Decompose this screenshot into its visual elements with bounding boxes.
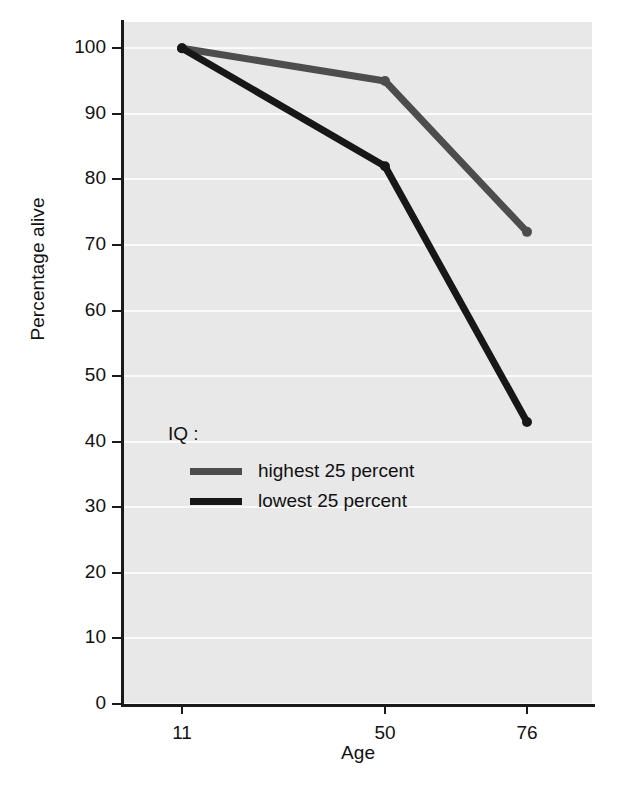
plot-area xyxy=(124,22,592,704)
y-tick-mark xyxy=(112,244,122,246)
series-2 xyxy=(177,43,532,427)
y-tick-mark xyxy=(112,572,122,574)
y-tick-label: 40 xyxy=(48,430,106,452)
y-tick-mark xyxy=(112,310,122,312)
y-tick-label: 10 xyxy=(48,626,106,648)
legend-swatch xyxy=(190,468,242,475)
y-tick-label: 50 xyxy=(48,364,106,386)
x-axis-title: Age xyxy=(124,742,592,764)
y-tick-mark xyxy=(112,113,122,115)
y-tick-label: 80 xyxy=(48,167,106,189)
legend-label: lowest 25 percent xyxy=(258,490,407,512)
x-tick-label: 76 xyxy=(492,722,562,744)
y-tick-label: 100 xyxy=(48,36,106,58)
y-tick-label: 70 xyxy=(48,233,106,255)
x-tick-mark xyxy=(526,704,528,714)
y-tick-mark xyxy=(112,637,122,639)
legend-label: highest 25 percent xyxy=(258,460,414,482)
data-point xyxy=(177,43,187,53)
series-line xyxy=(182,48,527,422)
data-point xyxy=(522,417,532,427)
x-tick-mark xyxy=(181,704,183,714)
y-tick-mark xyxy=(112,506,122,508)
y-axis-title: Percentage alive xyxy=(27,169,49,369)
y-tick-mark xyxy=(112,178,122,180)
y-tick-label: 20 xyxy=(48,561,106,583)
x-tick-label: 11 xyxy=(147,722,217,744)
chart-figure: Percentage alive Age 0102030405060708090… xyxy=(0,0,618,789)
y-tick-mark xyxy=(112,703,122,705)
data-point xyxy=(522,227,532,237)
y-tick-mark xyxy=(112,47,122,49)
y-tick-mark xyxy=(112,441,122,443)
y-tick-label: 90 xyxy=(48,102,106,124)
legend-entry: lowest 25 percent xyxy=(168,486,414,516)
legend: IQ : highest 25 percentlowest 25 percent xyxy=(168,423,414,516)
legend-entries: highest 25 percentlowest 25 percent xyxy=(168,456,414,516)
data-series-layer xyxy=(124,22,592,704)
data-point xyxy=(380,76,390,86)
x-tick-label: 50 xyxy=(350,722,420,744)
data-point xyxy=(380,161,390,171)
y-tick-label: 60 xyxy=(48,299,106,321)
legend-title: IQ : xyxy=(168,423,414,445)
legend-swatch xyxy=(190,498,242,505)
legend-entry: highest 25 percent xyxy=(168,456,414,486)
y-tick-label: 30 xyxy=(48,495,106,517)
y-tick-label: 0 xyxy=(48,692,106,714)
x-axis-line xyxy=(121,704,595,707)
y-tick-mark xyxy=(112,375,122,377)
y-axis-line xyxy=(121,20,124,706)
x-tick-mark xyxy=(384,704,386,714)
